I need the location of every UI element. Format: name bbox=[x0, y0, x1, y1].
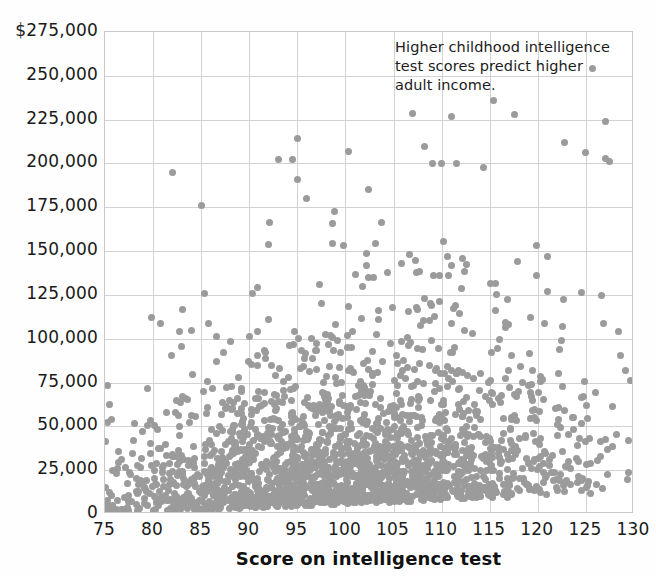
y-axis-tick-label: 200,000 bbox=[0, 153, 98, 170]
plot-area: Higher childhood intelligence test score… bbox=[104, 31, 633, 513]
y-axis-tick-label: 25,000 bbox=[0, 460, 98, 477]
scatter-plot-figure: 025,00050,00075,000100,000125,000150,000… bbox=[0, 0, 656, 576]
score-axis: 7580859095100105110115120125130 bbox=[104, 519, 633, 543]
y-axis-tick-label: 225,000 bbox=[0, 110, 98, 127]
y-axis-tick-label: 175,000 bbox=[0, 197, 98, 214]
x-axis-tick-label: 130 bbox=[603, 519, 656, 539]
y-axis-tick-label: 75,000 bbox=[0, 373, 98, 390]
y-axis-tick-label: 150,000 bbox=[0, 241, 98, 258]
y-axis-tick-label: $275,000 bbox=[0, 22, 98, 39]
y-axis-tick-label: 250,000 bbox=[0, 66, 98, 83]
y-axis-tick-label: 125,000 bbox=[0, 285, 98, 302]
x-axis-title: Score on intelligence test bbox=[104, 548, 633, 569]
chart-annotation: Higher childhood intelligence test score… bbox=[395, 38, 630, 95]
y-axis-tick-label: 50,000 bbox=[0, 416, 98, 433]
income-axis: 025,00050,00075,000100,000125,000150,000… bbox=[0, 31, 98, 513]
annotation-layer: Higher childhood intelligence test score… bbox=[105, 32, 632, 512]
y-axis-tick-label: 100,000 bbox=[0, 329, 98, 346]
